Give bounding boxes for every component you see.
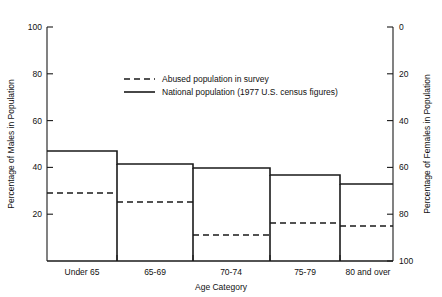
right-axis-tick-label: 40 <box>399 116 409 126</box>
category-label: Under 65 <box>65 267 100 277</box>
category-label: 75-79 <box>294 267 316 277</box>
legend-label-national: National population (1977 U.S. census fi… <box>162 87 338 97</box>
x-axis-title: Age Category <box>195 282 248 292</box>
legend-label-abused: Abused population in survey <box>162 74 270 84</box>
left-axis-tick-label: 40 <box>33 162 43 172</box>
category-label: 65-69 <box>144 267 166 277</box>
right-axis: 0 20 40 60 80 100 Percentage of Females … <box>387 22 432 266</box>
right-axis-title: Percentage of Females in Population <box>422 74 432 214</box>
right-axis-tick-label: 20 <box>399 69 409 79</box>
chart-legend: Abused population in survey National pop… <box>124 74 338 97</box>
chart-canvas: 100 80 60 40 20 Percentage of Males in P… <box>0 0 442 297</box>
left-axis-title: Percentage of Males in Population <box>6 79 16 209</box>
series-abused-population <box>47 193 393 235</box>
left-axis: 100 80 60 40 20 Percentage of Males in P… <box>6 22 53 261</box>
right-axis-tick-label: 80 <box>399 209 409 219</box>
category-label: 80 and over <box>346 267 391 277</box>
national-population-step-line <box>47 151 393 184</box>
left-axis-tick-label: 100 <box>28 22 42 32</box>
right-axis-tick-label: 100 <box>399 256 413 266</box>
chart-figure: 100 80 60 40 20 Percentage of Males in P… <box>0 0 442 297</box>
left-axis-tick-label: 60 <box>33 116 43 126</box>
right-axis-tick-label: 60 <box>399 162 409 172</box>
right-axis-tick-label: 0 <box>399 22 404 32</box>
category-label: 70-74 <box>220 267 242 277</box>
left-axis-tick-label: 20 <box>33 209 43 219</box>
left-axis-tick-label: 80 <box>33 69 43 79</box>
series-national-population <box>47 151 393 261</box>
bottom-axis: Under 65 65-69 70-74 75-79 80 and over A… <box>47 255 393 292</box>
